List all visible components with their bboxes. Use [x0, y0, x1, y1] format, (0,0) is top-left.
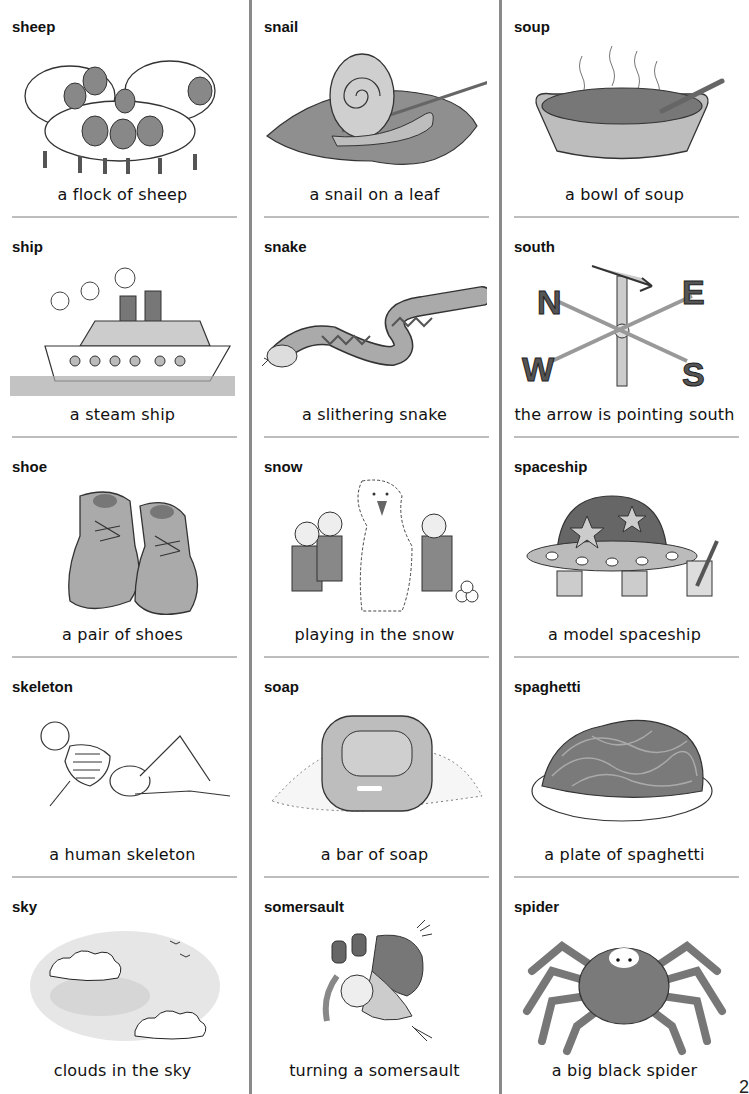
- entry-caption: a human skeleton: [0, 845, 245, 864]
- entry-snake: snake a slithering snake: [252, 220, 497, 438]
- entry-word: south: [514, 238, 555, 255]
- entry-caption: a snail on a leaf: [252, 185, 497, 204]
- entry-somersault: somersault turning a somersault: [252, 880, 497, 1094]
- entry-word: shoe: [12, 458, 47, 475]
- entry-caption: a steam ship: [0, 405, 245, 424]
- row-divider: [514, 656, 739, 658]
- entry-caption: a model spaceship: [502, 625, 747, 644]
- snail-icon: [262, 36, 487, 176]
- entry-word: spaceship: [514, 458, 587, 475]
- entry-south: south N E W S the arrow is pointing sout…: [502, 220, 747, 438]
- entry-sheep: sheep: [0, 0, 245, 218]
- entry-ship: ship a steam ship: [0, 220, 245, 438]
- entry-skeleton: skeleton a human skeleton: [0, 660, 245, 878]
- entry-word: sky: [12, 898, 37, 915]
- svg-text:N: N: [537, 283, 562, 321]
- row-divider: [264, 876, 489, 878]
- shoes-icon: [10, 476, 235, 616]
- row-divider: [12, 656, 237, 658]
- clouds-sky-icon: [10, 916, 235, 1056]
- row-divider: [12, 436, 237, 438]
- entry-spaceship: spaceship a model spaceship: [502, 440, 747, 658]
- entry-spaghetti: spaghetti a plate of spaghetti: [502, 660, 747, 878]
- row-divider: [12, 216, 237, 218]
- entry-caption: a plate of spaghetti: [502, 845, 747, 864]
- entry-caption: the arrow is pointing south: [502, 405, 747, 424]
- page-number: 2: [739, 1077, 749, 1094]
- row-divider: [264, 656, 489, 658]
- entry-shoe: shoe a pair of shoes: [0, 440, 245, 658]
- svg-text:S: S: [682, 355, 705, 393]
- entry-caption: a pair of shoes: [0, 625, 245, 644]
- spaghetti-plate-icon: [512, 696, 737, 836]
- row-divider: [514, 216, 739, 218]
- row-divider: [264, 216, 489, 218]
- entry-word: soup: [514, 18, 550, 35]
- skeleton-icon: [10, 696, 235, 836]
- steam-ship-icon: [10, 256, 235, 396]
- entry-word: soap: [264, 678, 299, 695]
- entry-spider: spider a big black spider: [502, 880, 747, 1094]
- row-divider: [12, 876, 237, 878]
- weather-vane-icon: N E W S: [512, 256, 737, 396]
- soap-bar-icon: [262, 696, 487, 836]
- entry-sky: sky clouds in the sky: [0, 880, 245, 1094]
- spider-icon: [512, 916, 737, 1056]
- entry-soap: soap a bar of soap: [252, 660, 497, 878]
- row-divider: [514, 436, 739, 438]
- entry-word: snail: [264, 18, 298, 35]
- spaceship-model-icon: [512, 476, 737, 616]
- svg-text:W: W: [522, 350, 555, 388]
- entry-caption: clouds in the sky: [0, 1061, 245, 1080]
- picture-dictionary-page: sheep: [0, 0, 749, 1094]
- entry-word: ship: [12, 238, 43, 255]
- snowman-kids-icon: [262, 476, 487, 616]
- entry-word: skeleton: [12, 678, 73, 695]
- entry-word: snow: [264, 458, 302, 475]
- entry-caption: a flock of sheep: [0, 185, 245, 204]
- somersault-child-icon: [262, 916, 487, 1056]
- entry-word: snake: [264, 238, 307, 255]
- entry-word: somersault: [264, 898, 344, 915]
- entry-caption: a bowl of soup: [502, 185, 747, 204]
- entry-soup: soup a bowl of soup: [502, 0, 747, 218]
- entry-caption: a big black spider: [502, 1061, 747, 1080]
- entry-word: sheep: [12, 18, 55, 35]
- entry-caption: turning a somersault: [252, 1061, 497, 1080]
- svg-text:E: E: [682, 273, 705, 311]
- entry-caption: playing in the snow: [252, 625, 497, 644]
- row-divider: [514, 876, 739, 878]
- entry-snow: snow playing in the snow: [252, 440, 497, 658]
- soup-bowl-icon: [512, 36, 737, 176]
- snake-icon: [262, 256, 487, 396]
- entry-snail: snail a snail on a leaf: [252, 0, 497, 218]
- entry-caption: a slithering snake: [252, 405, 497, 424]
- entry-word: spaghetti: [514, 678, 581, 695]
- entry-caption: a bar of soap: [252, 845, 497, 864]
- entry-word: spider: [514, 898, 559, 915]
- sheep-flock-icon: [10, 36, 235, 176]
- row-divider: [264, 436, 489, 438]
